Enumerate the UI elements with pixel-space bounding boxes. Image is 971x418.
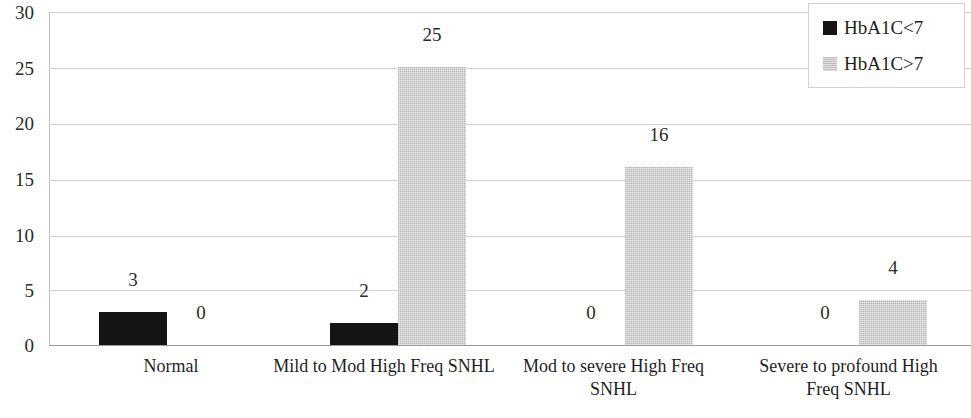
gridline bbox=[49, 236, 971, 237]
y-axis-tick-label: 10 bbox=[0, 226, 34, 245]
bar bbox=[625, 167, 693, 345]
legend-item: HbA1C<7 bbox=[823, 18, 923, 37]
x-axis-category-label: Mod to severe High Freq SNHL bbox=[511, 355, 716, 401]
bar bbox=[330, 323, 398, 345]
x-axis-category-label: Mild to Mod High Freq SNHL bbox=[268, 355, 500, 378]
legend-swatch-icon bbox=[823, 21, 837, 35]
x-axis-category-label: Severe to profound High Freq SNHL bbox=[746, 355, 951, 401]
y-axis-tick-label: 15 bbox=[0, 170, 34, 189]
legend-item: HbA1C>7 bbox=[823, 54, 923, 73]
bar-chart-figure: 302520151050 3022501604 NormalMild to Mo… bbox=[0, 0, 971, 418]
legend: HbA1C<7HbA1C>7 bbox=[808, 3, 965, 88]
bar bbox=[99, 312, 167, 345]
legend-item-label: HbA1C>7 bbox=[844, 54, 923, 73]
legend-item-label: HbA1C<7 bbox=[844, 18, 923, 37]
bar-value-label: 0 bbox=[557, 303, 625, 322]
bar-value-label: 25 bbox=[398, 25, 466, 44]
y-axis-tick-label: 20 bbox=[0, 114, 34, 133]
y-axis-tick-label: 0 bbox=[0, 336, 34, 355]
legend-swatch-icon bbox=[823, 57, 837, 71]
bar-value-label: 3 bbox=[99, 270, 167, 289]
bar-value-label: 2 bbox=[330, 281, 398, 300]
bar-value-label: 0 bbox=[167, 303, 235, 322]
bar-value-label: 0 bbox=[791, 303, 859, 322]
bar-value-label: 16 bbox=[625, 125, 693, 144]
gridline bbox=[49, 180, 971, 181]
bar bbox=[859, 300, 927, 345]
axis-baseline bbox=[49, 345, 971, 346]
gridline bbox=[49, 124, 971, 125]
y-axis-tick-label: 30 bbox=[0, 3, 34, 22]
x-axis-category-label: Normal bbox=[71, 355, 271, 378]
bar-value-label: 4 bbox=[859, 258, 927, 277]
gridline bbox=[49, 290, 971, 291]
y-axis-tick-label: 25 bbox=[0, 59, 34, 78]
bar bbox=[398, 67, 466, 345]
y-axis-tick-label: 5 bbox=[0, 281, 34, 300]
